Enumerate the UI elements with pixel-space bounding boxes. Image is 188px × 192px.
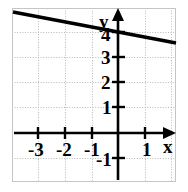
x-tick-label-minus-2: -2 (56, 140, 72, 159)
y-tick-label-4: 4 (101, 25, 111, 44)
y-tick-label-1: 1 (102, 98, 112, 117)
x-tick-label-minus-3: -3 (28, 140, 44, 159)
x-tick-label-1: 1 (142, 140, 152, 159)
y-tick-label-2: 2 (101, 73, 111, 92)
y-tick-label-3: 3 (101, 48, 111, 67)
graph-canvas (0, 0, 188, 192)
x-tick-label-minus-1: -1 (84, 140, 100, 159)
x-axis-label: x (163, 137, 173, 156)
linear-function-graph: y x 4 3 2 1 -1 -3 -2 -1 1 (0, 0, 188, 192)
